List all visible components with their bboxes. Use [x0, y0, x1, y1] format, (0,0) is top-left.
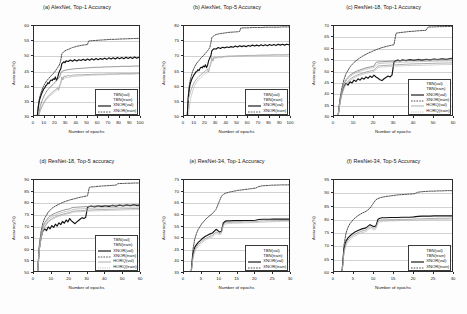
legend-b: TBN(val)TBN(train)XNOR(val)XNOR(train)	[245, 89, 288, 115]
x-tick-mark	[219, 272, 220, 274]
x-tick-mark	[215, 116, 216, 118]
x-tick-label: 50	[431, 120, 436, 125]
y-tick-label: 70	[302, 243, 329, 248]
panel-b: (b) AlexNet, Top-5 AccuracyTBN(val)TBN(t…	[152, 4, 302, 154]
y-tick-mark	[331, 206, 333, 207]
x-tick-label: 90	[127, 120, 132, 125]
x-tick-mark	[140, 272, 141, 274]
x-tick-mark	[269, 116, 270, 118]
legend-d: TBN(val)TBN(train)XNOR(val)XNOR(train)HO…	[95, 235, 138, 272]
y-tick-mark	[181, 202, 183, 203]
y-tick-label: 50	[2, 53, 29, 58]
panel-f: (f) ResNet-34, Top-5 AccuracyTBN(val)TBN…	[302, 158, 465, 310]
x-tick-mark	[393, 272, 394, 274]
x-tick-label: 30	[84, 276, 89, 281]
x-tick-mark	[65, 116, 66, 118]
legend-label: XNOR(train)	[263, 264, 286, 269]
x-tick-label: 0	[182, 276, 184, 281]
x-tick-mark	[87, 272, 88, 274]
x-tick-mark	[76, 116, 77, 118]
x-tick-mark	[51, 272, 52, 274]
x-tick-label: 40	[102, 276, 107, 281]
x-tick-mark	[44, 116, 45, 118]
y-tick-mark	[331, 93, 333, 94]
y-tick-mark	[31, 226, 33, 227]
x-tick-mark	[333, 272, 334, 274]
x-tick-label: 50	[234, 120, 239, 125]
x-tick-label: 5	[352, 276, 354, 281]
x-tick-label: 50	[120, 276, 125, 281]
x-tick-label: 10	[371, 276, 376, 281]
y-tick-mark	[181, 260, 183, 261]
x-tick-label: 30	[391, 120, 396, 125]
y-tick-label: 60	[302, 270, 329, 275]
y-tick-label: 45	[152, 246, 179, 251]
x-tick-mark	[69, 272, 70, 274]
x-tick-label: 40	[73, 120, 78, 125]
y-tick-mark	[181, 101, 183, 102]
x-tick-label: 10	[216, 276, 221, 281]
legend-label: XNOR(train)	[426, 264, 449, 269]
x-tick-label: 0	[332, 276, 334, 281]
x-tick-label: 90	[277, 120, 282, 125]
y-tick-mark	[331, 25, 333, 26]
x-tick-label: 0	[182, 120, 184, 125]
x-tick-label: 10	[351, 120, 356, 125]
y-tick-mark	[181, 191, 183, 192]
y-tick-mark	[181, 237, 183, 238]
y-tick-mark	[181, 226, 183, 227]
x-tick-label: 10	[48, 276, 53, 281]
x-tick-mark	[183, 116, 184, 118]
y-tick-mark	[181, 86, 183, 87]
x-tick-label: 0	[32, 276, 34, 281]
y-tick-label: 65	[302, 256, 329, 261]
y-tick-mark	[331, 232, 333, 233]
figure-canvas: (a) AlexNet, Top-1 AccuracyTBN(val)TBN(t…	[0, 0, 467, 314]
y-tick-label: 85	[2, 188, 29, 193]
x-tick-label: 60	[138, 276, 143, 281]
x-tick-label: 10	[191, 120, 196, 125]
x-tick-label: 20	[252, 276, 257, 281]
y-tick-mark	[31, 101, 33, 102]
x-tick-mark	[433, 116, 434, 118]
x-tick-label: 15	[234, 276, 239, 281]
y-tick-mark	[331, 259, 333, 260]
x-tick-label: 50	[84, 120, 89, 125]
y-tick-mark	[31, 86, 33, 87]
plot-area-a: TBN(val)TBN(train)XNOR(val)XNOR(train)	[33, 25, 140, 116]
legend-label: HORQ(train)	[426, 108, 450, 113]
y-tick-mark	[331, 48, 333, 49]
x-tick-mark	[194, 116, 195, 118]
y-tick-label: 70	[152, 188, 179, 193]
y-tick-mark	[181, 40, 183, 41]
y-tick-label: 55	[2, 38, 29, 43]
y-tick-mark	[181, 55, 183, 56]
x-tick-mark	[373, 116, 374, 118]
x-tick-label: 20	[411, 276, 416, 281]
x-tick-label: 80	[266, 120, 271, 125]
y-tick-label: 75	[152, 177, 179, 182]
y-tick-mark	[31, 191, 33, 192]
y-axis-label: Accuracy(%)	[311, 216, 316, 240]
x-tick-mark	[108, 116, 109, 118]
y-tick-mark	[31, 260, 33, 261]
y-tick-mark	[331, 71, 333, 72]
y-tick-mark	[31, 71, 33, 72]
x-axis-label: Number of epochs	[183, 285, 290, 290]
x-tick-label: 25	[270, 276, 275, 281]
x-axis-label: Number of epochs	[33, 129, 140, 134]
x-tick-label: 40	[223, 120, 228, 125]
plot-area-e: TBN(val)TBN(train)XNOR(val)XNOR(train)	[183, 179, 290, 272]
x-tick-label: 30	[451, 276, 456, 281]
legend-label: HORQ(train)	[113, 264, 137, 269]
x-tick-mark	[333, 116, 334, 118]
x-tick-label: 60	[95, 120, 100, 125]
x-tick-mark	[129, 116, 130, 118]
y-tick-mark	[31, 25, 33, 26]
y-axis-label: Accuracy(%)	[311, 61, 316, 85]
y-axis-label: Accuracy(%)	[11, 61, 16, 85]
legend-label: XNOR(train)	[113, 108, 136, 113]
x-axis-label: Number of epochs	[333, 285, 453, 290]
x-tick-label: 0	[32, 120, 34, 125]
panel-title-b: (b) AlexNet, Top-5 Accuracy	[152, 4, 302, 10]
